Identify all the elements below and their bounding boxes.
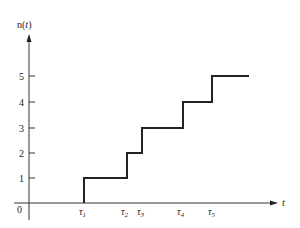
y-tick-4: 4: [19, 97, 24, 108]
x-ticks: τ1 τ2 τ3 τ4 τ5: [79, 206, 216, 219]
x-axis-arrow-icon: [270, 201, 278, 206]
y-ticks: 1 2 3 4 5: [19, 71, 35, 184]
y-tick-2: 2: [19, 148, 24, 159]
y-tick-3: 3: [19, 123, 24, 134]
step-series-line: [84, 76, 249, 203]
step-chart: n(t) t 0 1 2 3 4 5 τ1 τ2 τ3 τ4 τ5: [0, 0, 300, 228]
y-axis-arrow-icon: [27, 34, 32, 42]
y-tick-1: 1: [19, 173, 24, 184]
x-tick-tau1: τ1: [79, 206, 86, 219]
y-axis-label: n(t): [17, 19, 31, 31]
y-tick-5: 5: [19, 71, 24, 82]
x-axis-label: t: [282, 197, 285, 208]
x-tick-tau3: τ3: [137, 206, 145, 219]
x-tick-tau5: τ5: [208, 206, 216, 219]
x-tick-tau4: τ4: [177, 206, 185, 219]
origin-label: 0: [17, 204, 22, 215]
x-tick-tau2: τ2: [121, 206, 129, 219]
